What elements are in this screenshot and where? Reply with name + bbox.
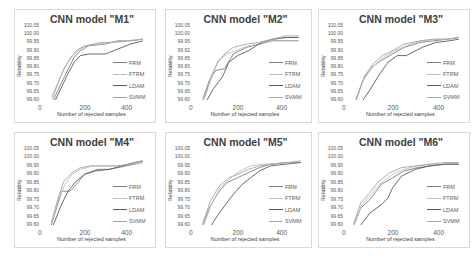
legend-swatch [427, 209, 441, 210]
legend-swatch [113, 209, 127, 210]
y-tick-label: 100.00 [17, 30, 39, 36]
legend-item-frm: FRM [269, 57, 302, 69]
y-axis-label: Reliability [167, 56, 173, 77]
y-tick-label: 100.05 [321, 22, 343, 28]
x-tick-label: 200 [388, 104, 399, 111]
y-tick-label: 99.70 [17, 80, 39, 86]
x-axis-label: Number of rejected samples [57, 111, 126, 117]
legend-swatch [113, 74, 127, 75]
y-tick-label: 99.95 [321, 162, 343, 168]
y-axis-label: Reliability [320, 180, 326, 201]
legend-swatch [269, 62, 283, 63]
legend-item-svmm: SVMM [269, 92, 302, 104]
legend-item-ldam: LDAM [269, 204, 302, 216]
legend-swatch [269, 74, 283, 75]
legend-swatch [269, 186, 283, 187]
x-axis-label: Number of rejected samples [211, 236, 280, 242]
y-tick-label: 99.90 [321, 47, 343, 53]
legend-label: FTRM [443, 195, 458, 201]
legend-swatch [427, 97, 441, 98]
legend-label: FRM [443, 60, 455, 66]
legend-label: FRM [285, 184, 297, 190]
y-tick-label: 99.95 [168, 38, 190, 44]
x-tick-label: 200 [233, 104, 244, 111]
y-tick-label: 99.95 [321, 38, 343, 44]
legend-label: FTRM [285, 71, 300, 77]
y-tick-label: 99.92 [168, 47, 190, 53]
x-axis-label: Number of rejected samples [366, 111, 435, 117]
x-tick-label: 400 [433, 229, 444, 236]
y-tick-label: 99.90 [17, 170, 39, 176]
chart-panel-m1: CNN model "M1"100.05100.0099.9599.9099.8… [14, 9, 156, 123]
legend-item-ftrm: FTRM [113, 69, 146, 81]
legend-swatch [427, 221, 441, 222]
legend-swatch [427, 74, 441, 75]
x-axis-label: Number of rejected samples [211, 111, 280, 117]
y-tick-label: 99.70 [321, 204, 343, 210]
y-tick-label: 100.05 [17, 22, 39, 28]
y-tick-label: 99.60 [168, 221, 190, 227]
legend-item-svmm: SVMM [427, 215, 460, 227]
legend: FRMFTRMLDAMSVMM [269, 57, 302, 103]
legend-item-frm: FRM [269, 181, 302, 193]
legend-label: LDAM [285, 207, 300, 213]
y-tick-label: 99.70 [17, 204, 39, 210]
x-tick-label: 200 [80, 229, 91, 236]
y-tick-label: 100.00 [17, 153, 39, 159]
legend-swatch [113, 198, 127, 199]
y-tick-label: 99.65 [168, 213, 190, 219]
x-tick-label: 400 [276, 229, 287, 236]
y-tick-label: 99.65 [168, 88, 190, 94]
legend-label: SVMM [285, 218, 302, 224]
legend-label: FTRM [129, 195, 144, 201]
legend-swatch [427, 85, 441, 86]
y-tick-label: 100.05 [17, 145, 39, 151]
y-tick-label: 99.60 [17, 221, 39, 227]
legend-item-ftrm: FTRM [427, 69, 460, 81]
legend-swatch [113, 62, 127, 63]
y-tick-label: 99.70 [168, 80, 190, 86]
x-tick-label: 200 [233, 229, 244, 236]
y-tick-label: 99.70 [321, 80, 343, 86]
legend-item-ftrm: FTRM [269, 192, 302, 204]
y-tick-label: 99.95 [17, 162, 39, 168]
legend-item-ftrm: FTRM [269, 69, 302, 81]
legend-label: FRM [285, 60, 297, 66]
legend-item-ldam: LDAM [427, 80, 460, 92]
x-tick-label: 200 [388, 229, 399, 236]
x-tick-label: 0 [342, 104, 346, 111]
legend-item-ftrm: FTRM [427, 192, 460, 204]
legend-item-svmm: SVMM [113, 92, 146, 104]
y-tick-label: 99.65 [321, 88, 343, 94]
legend-item-frm: FRM [113, 181, 146, 193]
legend-label: FRM [443, 184, 455, 190]
legend-item-frm: FRM [427, 181, 460, 193]
x-tick-label: 400 [121, 104, 132, 111]
legend-item-ldam: LDAM [113, 80, 146, 92]
x-tick-label: 0 [38, 104, 42, 111]
y-axis-label: Reliability [16, 56, 22, 77]
legend-item-svmm: SVMM [113, 215, 146, 227]
legend-swatch [427, 186, 441, 187]
legend-label: SVMM [129, 94, 146, 100]
x-tick-label: 0 [38, 229, 42, 236]
x-tick-label: 400 [276, 104, 287, 111]
y-tick-label: 100.05 [168, 22, 190, 28]
chart-panel-m6: CNN model "M6"100.05100.0099.9599.9099.8… [318, 132, 470, 248]
legend-swatch [269, 209, 283, 210]
legend-swatch [269, 85, 283, 86]
legend-swatch [113, 186, 127, 187]
legend-label: FRM [129, 60, 141, 66]
legend-label: SVMM [443, 94, 460, 100]
legend-item-frm: FRM [113, 57, 146, 69]
y-axis-label: Reliability [320, 56, 326, 77]
x-axis-label: Number of rejected samples [57, 236, 126, 242]
legend-swatch [113, 97, 127, 98]
legend-swatch [113, 221, 127, 222]
legend: FRMFTRMLDAMSVMM [113, 57, 146, 103]
y-tick-label: 99.95 [17, 38, 39, 44]
y-axis-label: Reliability [167, 180, 173, 201]
y-tick-label: 99.95 [168, 162, 190, 168]
legend-swatch [269, 97, 283, 98]
y-tick-label: 99.60 [168, 96, 190, 102]
